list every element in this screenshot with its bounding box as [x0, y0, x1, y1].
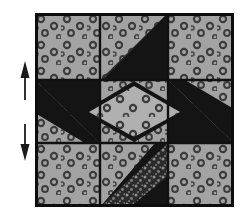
arrow-up-icon: [21, 61, 30, 100]
quilt-block: [35, 13, 234, 207]
arrow-down-icon: [21, 124, 30, 161]
figure-canvas: [0, 0, 244, 223]
arrow-annotations: [0, 0, 35, 223]
quilt-block-svg: [35, 13, 234, 207]
